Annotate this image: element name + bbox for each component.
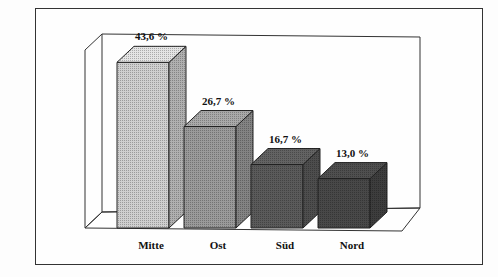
value-label: 26,7 % bbox=[202, 95, 235, 107]
category-label: Nord bbox=[340, 239, 364, 251]
value-label: 13,0 % bbox=[336, 147, 369, 159]
bar-chart: 43,6 %Mitte26,7 %Ost16,7 %Süd13,0 %Nord bbox=[0, 0, 498, 277]
category-label: Mitte bbox=[138, 239, 164, 251]
category-label: Ost bbox=[210, 239, 227, 251]
side-wall bbox=[85, 34, 102, 228]
category-label: Süd bbox=[276, 239, 294, 251]
value-label: 16,7 % bbox=[269, 133, 302, 145]
value-label: 43,6 % bbox=[135, 30, 168, 42]
